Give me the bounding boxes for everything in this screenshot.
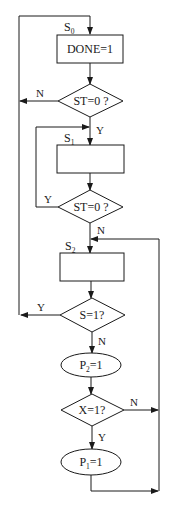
flowchart: S0 DONE=1 ST=0 ? N Y S1 ST=0 ? Y N S2 S=… [0, 0, 172, 509]
s2-box [60, 253, 124, 281]
st-check-2-text: ST=0 ? [73, 200, 108, 214]
edge-label-x-no: N [130, 396, 138, 408]
edge-p1-to-right-loop [91, 475, 158, 491]
edge-label-st1-yes: Y [96, 124, 104, 136]
st-check-1-decision: ST=0 ? [58, 84, 123, 117]
done-box: DONE=1 [57, 35, 123, 63]
edge-label-s-yes: Y [37, 301, 45, 313]
edge-label-s-no: N [98, 335, 106, 347]
p2-output-text: P2=1 [79, 358, 102, 374]
x-check-decision: X=1? [61, 394, 124, 426]
s1-box [57, 145, 124, 173]
p1-output-text: P1=1 [79, 455, 102, 471]
edge-label-st1-no: N [36, 87, 44, 99]
s-check-text: S=1? [80, 308, 105, 322]
done-box-text: DONE=1 [67, 42, 113, 56]
edge-label-st2-no: N [97, 224, 105, 236]
s-check-decision: S=1? [60, 298, 125, 332]
p1-output: P1=1 [61, 449, 121, 475]
st-check-2-decision: ST=0 ? [58, 190, 123, 223]
edge-label-st2-yes: Y [44, 193, 52, 205]
state-label-s0: S0 [64, 20, 75, 36]
x-check-text: X=1? [79, 403, 106, 417]
edge-label-x-yes: Y [98, 431, 106, 443]
p2-output: P2=1 [61, 353, 121, 377]
st-check-1-text: ST=0 ? [73, 94, 108, 108]
